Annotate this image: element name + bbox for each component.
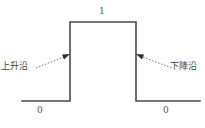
digital-pulse-waveform-figure: 1 0 0 上升沿 下降沿 bbox=[0, 0, 205, 128]
falling-edge-arrowhead-icon bbox=[136, 54, 144, 60]
rising-edge-leader-line bbox=[36, 56, 66, 68]
rising-edge-label: 上升沿 bbox=[1, 62, 28, 71]
high-level-label: 1 bbox=[99, 7, 105, 16]
rising-edge-annotation bbox=[36, 54, 70, 68]
falling-edge-annotation bbox=[136, 54, 172, 68]
falling-edge-leader-line bbox=[140, 56, 172, 68]
rising-edge-arrowhead-icon bbox=[62, 54, 70, 60]
falling-edge-label: 下降沿 bbox=[170, 62, 197, 71]
low-level-label-left: 0 bbox=[37, 106, 43, 115]
low-level-label-right: 0 bbox=[163, 106, 169, 115]
